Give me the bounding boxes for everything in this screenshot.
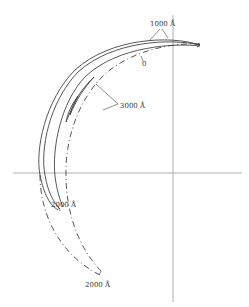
- diagram-canvas: 1000 Å 0 3000 Å 2000 Å 2000 Å: [0, 0, 249, 307]
- inner-loop: [66, 77, 94, 122]
- leader-lines: [57, 29, 168, 275]
- label-2000-solid: 2000 Å: [51, 200, 77, 209]
- label-0: 0: [142, 60, 146, 68]
- label-3000: 3000 Å: [120, 101, 146, 110]
- dashed-locus: [66, 44, 200, 272]
- label-1000: 1000 Å: [150, 19, 176, 28]
- label-2000-dash: 2000 Å: [85, 280, 111, 289]
- solid-locus-outer: [39, 40, 200, 210]
